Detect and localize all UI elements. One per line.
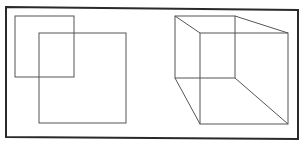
wireframe-cube-figure (175, 16, 288, 124)
outer-frame (6, 7, 298, 139)
cube-edge (235, 78, 288, 124)
overlapping-squares-figure (15, 16, 126, 123)
cube-edge (235, 16, 288, 33)
cube-edge (175, 78, 200, 124)
cube-edge (175, 16, 200, 33)
square-b (39, 33, 126, 123)
diagram-canvas (0, 0, 305, 144)
cube-back-face (175, 16, 235, 78)
square-a (15, 16, 74, 77)
